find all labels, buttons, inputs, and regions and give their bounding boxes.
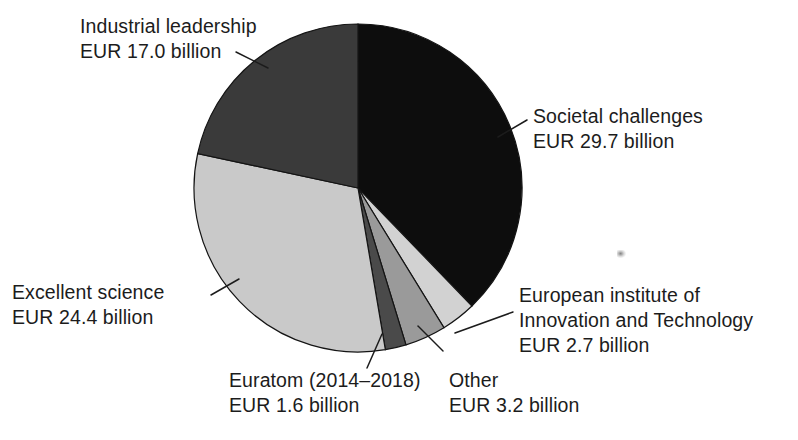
- leader-line-eit: [455, 312, 513, 333]
- pie-chart-figure: Industrial leadership EUR 17.0 billion S…: [0, 0, 798, 440]
- pie-label-societal-challenges-value: EUR 29.7 billion: [533, 129, 703, 154]
- pie-label-eit-name-line2: Innovation and Technology: [519, 308, 753, 333]
- pie-label-societal-challenges-name: Societal challenges: [533, 104, 703, 129]
- pie-label-excellent-science-value: EUR 24.4 billion: [12, 305, 164, 330]
- pie-label-industrial-leadership-value: EUR 17.0 billion: [80, 39, 257, 64]
- pie-label-excellent-science: Excellent science EUR 24.4 billion: [12, 280, 164, 330]
- pie-slice-group: [194, 24, 522, 352]
- pie-label-eit: European institute of Innovation and Tec…: [519, 283, 753, 358]
- pie-label-societal-challenges: Societal challenges EUR 29.7 billion: [533, 104, 703, 154]
- pie-label-other-value: EUR 3.2 billion: [449, 393, 579, 418]
- pie-label-euratom: Euratom (2014–2018) EUR 1.6 billion: [229, 368, 421, 418]
- pie-label-industrial-leadership: Industrial leadership EUR 17.0 billion: [80, 14, 257, 64]
- pie-label-eit-value: EUR 2.7 billion: [519, 333, 753, 358]
- pie-label-eit-name-line1: European institute of: [519, 283, 753, 308]
- pie-label-industrial-leadership-name: Industrial leadership: [80, 14, 257, 39]
- pie-label-other-name: Other: [449, 368, 579, 393]
- pie-label-euratom-name: Euratom (2014–2018): [229, 368, 421, 393]
- pie-label-euratom-value: EUR 1.6 billion: [229, 393, 421, 418]
- pie-label-other: Other EUR 3.2 billion: [449, 368, 579, 418]
- pie-label-excellent-science-name: Excellent science: [12, 280, 164, 305]
